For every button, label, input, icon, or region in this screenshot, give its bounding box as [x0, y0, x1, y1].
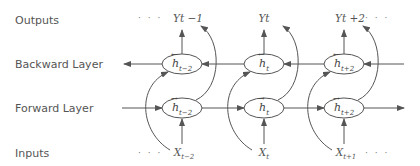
output-label-t-1: Yt −1: [173, 12, 203, 24]
output-label-t: Yt: [258, 12, 269, 24]
row-label-outputs: Outputs: [15, 14, 59, 27]
backward-node-label-t: ←ht: [259, 57, 269, 72]
input-label-t+1: Xt+1: [336, 146, 357, 161]
input-label-t: Xt: [259, 146, 269, 161]
row-label-forward-layer: Forward Layer: [15, 102, 93, 115]
forward-node-label-t-2: →ht−2: [172, 101, 192, 116]
birnn-diagram: [0, 0, 420, 166]
backward-node-label-t+2: ←ht+2: [334, 57, 354, 72]
row-label-inputs: Inputs: [15, 147, 49, 160]
row-label-backward-layer: Backward Layer: [15, 58, 103, 71]
forward-node-label-t: →ht: [259, 101, 269, 116]
forward-node-label-t+2: →ht+2: [334, 101, 354, 116]
output-label-t+2: Yt +2: [335, 12, 365, 24]
inputs-ellipsis-left: · · ·: [138, 148, 162, 158]
outputs-ellipsis-right: · · ·: [365, 13, 389, 23]
input-label-t-2: Xt−2: [174, 146, 195, 161]
backward-node-label-t-2: ←ht−2: [172, 57, 192, 72]
inputs-ellipsis-right: · · ·: [365, 148, 389, 158]
outputs-ellipsis-left: · · ·: [138, 13, 162, 23]
